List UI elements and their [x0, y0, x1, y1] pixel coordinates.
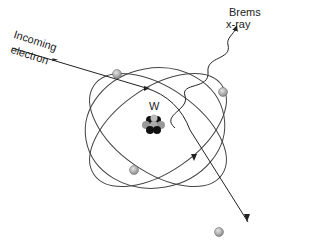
arrow-icon — [52, 58, 59, 63]
nucleus — [142, 115, 165, 135]
brems-label: Brems — [229, 6, 261, 18]
xray-label: x-ray — [226, 18, 250, 30]
orbital-electron — [113, 70, 122, 79]
ejected-electron — [215, 228, 224, 237]
orbital-electron — [130, 166, 139, 175]
nucleus-label: W — [149, 100, 159, 112]
orbital-electron — [219, 88, 228, 97]
